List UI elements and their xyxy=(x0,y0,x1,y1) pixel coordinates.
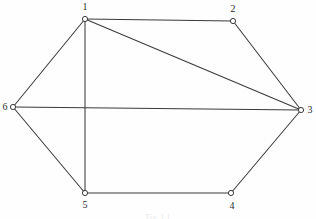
graph-edge-2-3 xyxy=(233,21,301,110)
node-label-4: 4 xyxy=(230,201,235,211)
graph-edge-1-3 xyxy=(85,19,301,110)
edges-layer xyxy=(13,19,301,193)
figure-caption: Fig. 1.1 xyxy=(146,213,171,219)
graph-edge-4-3 xyxy=(231,110,301,193)
graph-node-1[interactable] xyxy=(82,16,87,21)
node-label-6: 6 xyxy=(3,102,8,112)
graph-node-2[interactable] xyxy=(230,18,235,23)
nodes-layer xyxy=(10,16,303,195)
node-label-5: 5 xyxy=(83,200,88,210)
graph-node-4[interactable] xyxy=(228,190,233,195)
node-label-1: 1 xyxy=(83,2,88,12)
graph-figure: 123456 Fig. 1.1 xyxy=(0,0,316,219)
graph-canvas xyxy=(0,0,316,219)
node-label-3: 3 xyxy=(308,105,313,115)
graph-node-5[interactable] xyxy=(82,190,87,195)
graph-edge-1-2 xyxy=(85,19,233,21)
graph-edge-6-5 xyxy=(13,107,85,193)
graph-node-6[interactable] xyxy=(10,104,15,109)
graph-edge-6-3 xyxy=(13,107,301,110)
graph-edge-1-6 xyxy=(13,19,85,107)
node-label-2: 2 xyxy=(231,4,236,14)
graph-node-3[interactable] xyxy=(298,107,303,112)
